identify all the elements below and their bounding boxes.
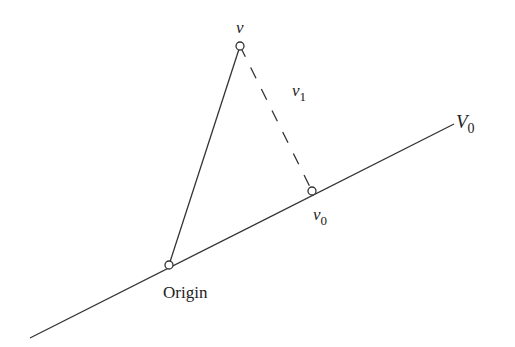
label-v1: v1 xyxy=(292,81,306,104)
point-v-icon xyxy=(236,42,244,50)
label-v: v xyxy=(236,18,244,37)
point-origin-icon xyxy=(165,261,173,269)
point-v0-icon xyxy=(308,187,316,195)
subspace-line-V0 xyxy=(30,124,454,338)
orthogonal-component-v1-line xyxy=(240,46,312,191)
label-v0: v0 xyxy=(313,205,327,228)
vector-v-line xyxy=(169,46,240,265)
projection-diagram: v v1 V0 v0 Origin xyxy=(0,0,515,347)
label-origin: Origin xyxy=(163,283,208,302)
label-V0: V0 xyxy=(456,111,475,136)
